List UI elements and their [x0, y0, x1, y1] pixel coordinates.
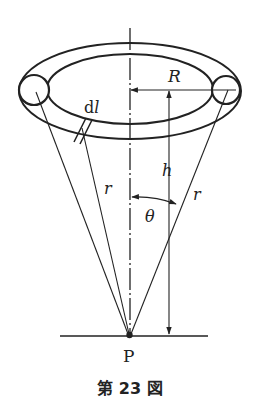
height-label: h	[162, 161, 172, 180]
radius-label: R	[167, 66, 181, 86]
left-cross-section-circle	[19, 75, 49, 105]
element-tick-2	[80, 120, 92, 144]
point-p-dot	[126, 332, 132, 338]
figure-caption: 第 23 図	[97, 379, 162, 398]
distance-label-left: r	[104, 179, 113, 198]
element-label: dl	[84, 98, 99, 117]
angle-label: θ	[145, 207, 155, 226]
torus-field-diagram: R h dl r r θ P 第 23 図	[0, 0, 259, 404]
point-p-label: P	[123, 346, 134, 366]
distance-label-right: r	[193, 185, 202, 204]
